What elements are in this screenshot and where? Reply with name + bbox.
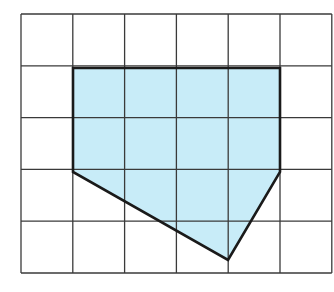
grid-diagram [0, 0, 334, 292]
grid-svg [0, 0, 334, 292]
